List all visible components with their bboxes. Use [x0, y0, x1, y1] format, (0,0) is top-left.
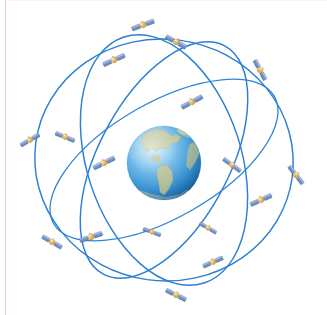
satellite-17 [165, 286, 188, 302]
satellite-06 [19, 131, 41, 148]
satellite-01 [131, 17, 155, 32]
satellite-04 [252, 58, 269, 81]
satellite-constellation-figure: Satellite constellation around Earth GNS… [0, 0, 327, 315]
constellation-scene [0, 0, 327, 315]
satellite-05 [180, 93, 204, 110]
satellite-03 [102, 51, 126, 67]
satellite-12 [41, 233, 63, 250]
satellite-08 [92, 154, 116, 171]
satellite-11 [249, 191, 273, 207]
satellite-15 [199, 220, 218, 235]
satellite-16 [202, 254, 224, 269]
satellite-09 [222, 156, 243, 174]
earth-globe [127, 126, 201, 200]
satellite-07 [55, 129, 76, 143]
satellite-10 [287, 164, 306, 186]
satellite-14 [143, 225, 162, 237]
